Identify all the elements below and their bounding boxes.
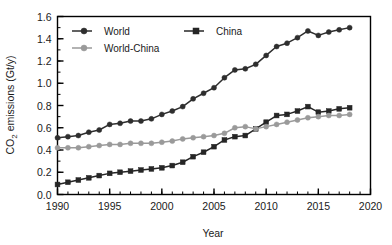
data-point (118, 121, 123, 126)
data-point (107, 122, 112, 127)
x-tick-label: 2010 (254, 200, 278, 212)
data-point (253, 126, 258, 131)
data-point (66, 180, 71, 185)
x-tick-label: 2020 (359, 200, 383, 212)
data-point (326, 113, 331, 118)
x-axis-title: Year (202, 227, 224, 239)
data-point (295, 35, 300, 40)
data-point (76, 145, 81, 150)
data-point (316, 114, 321, 119)
data-point (180, 104, 185, 109)
data-point (107, 171, 112, 176)
y-tick-label: 1.2 (37, 55, 52, 67)
data-point (118, 170, 123, 175)
data-point (191, 154, 196, 159)
data-point (107, 142, 112, 147)
data-point (76, 178, 81, 183)
data-point (212, 85, 217, 90)
chart-figure: 1990199520002005201020152020 0.00.20.40.… (0, 0, 392, 245)
data-point (180, 136, 185, 141)
y-tick-label: 1.4 (37, 33, 52, 45)
data-point (149, 116, 154, 121)
data-point (55, 182, 60, 187)
data-point (159, 140, 164, 145)
y-tick-label: 0.4 (37, 144, 52, 156)
data-point (347, 25, 352, 30)
data-point (86, 144, 91, 149)
x-tick-label: 1995 (98, 200, 122, 212)
data-point (149, 141, 154, 146)
data-point (55, 135, 60, 140)
data-point (55, 145, 60, 150)
data-point (285, 120, 290, 125)
data-point (201, 91, 206, 96)
line-chart: 1990199520002005201020152020 0.00.20.40.… (0, 0, 392, 245)
legend-marker-circle (81, 45, 87, 51)
y-tick-label: 0.2 (37, 166, 52, 178)
data-point (274, 113, 279, 118)
data-point (65, 134, 70, 139)
data-point (97, 173, 102, 178)
data-point (138, 141, 143, 146)
data-point (326, 109, 331, 114)
y-tick-label: 1.0 (37, 77, 52, 89)
data-point (76, 133, 81, 138)
data-point (201, 134, 206, 139)
data-point (264, 53, 269, 58)
data-point (243, 66, 248, 71)
y-tick-label: 0.0 (37, 189, 52, 201)
legend-label: World (104, 26, 130, 37)
data-point (138, 119, 143, 124)
data-point (285, 112, 290, 117)
data-point (316, 33, 321, 38)
legend-marker-circle (81, 28, 87, 34)
data-point (191, 96, 196, 101)
x-tick-label: 2005 (202, 200, 226, 212)
data-point (212, 133, 217, 138)
data-point (337, 106, 342, 111)
data-point (170, 163, 175, 168)
legend-label: China (216, 26, 243, 37)
data-point (232, 125, 237, 130)
data-point (86, 130, 91, 135)
y-axis-tick-labels: 0.00.20.40.60.81.01.21.41.6 (37, 11, 52, 201)
data-point (253, 62, 258, 67)
data-point (128, 141, 133, 146)
data-point (347, 105, 352, 110)
data-point (222, 75, 227, 80)
data-point (159, 165, 164, 170)
data-point (285, 41, 290, 46)
data-point (222, 131, 227, 136)
data-point (274, 122, 279, 127)
data-point (347, 112, 352, 117)
data-point (65, 145, 70, 150)
data-point (212, 144, 217, 149)
data-point (295, 117, 300, 122)
legend-label: World-China (104, 43, 160, 54)
x-tick-label: 2000 (150, 200, 174, 212)
data-point (243, 124, 248, 129)
data-point (222, 138, 227, 143)
data-point (128, 119, 133, 124)
data-point (305, 115, 310, 120)
data-point (232, 67, 237, 72)
x-tick-label: 1990 (46, 200, 70, 212)
data-point (337, 27, 342, 32)
data-point (243, 133, 248, 138)
data-point (201, 150, 206, 155)
data-point (159, 112, 164, 117)
data-point (274, 44, 279, 49)
data-point (337, 113, 342, 118)
data-point (191, 135, 196, 140)
data-point (305, 28, 310, 33)
y-tick-label: 1.6 (37, 11, 52, 23)
data-point (97, 143, 102, 148)
data-point (264, 124, 269, 129)
data-point (170, 139, 175, 144)
data-point (316, 110, 321, 115)
data-point (86, 175, 91, 180)
data-point (180, 160, 185, 165)
data-point (128, 169, 133, 174)
data-point (306, 104, 311, 109)
data-point (139, 168, 144, 173)
